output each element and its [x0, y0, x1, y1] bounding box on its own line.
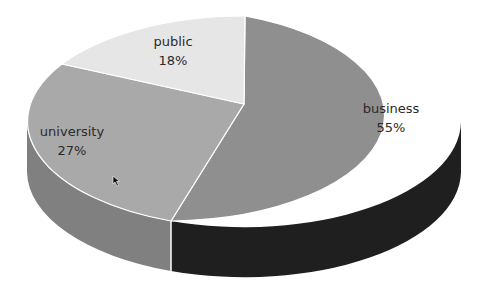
label-percent: 18% — [153, 51, 192, 70]
data-label-university: university 27% — [40, 122, 104, 160]
data-label-public: public 18% — [153, 32, 192, 70]
data-label-business: business 55% — [363, 99, 420, 137]
label-name: business — [363, 99, 420, 118]
label-percent: 27% — [40, 141, 104, 160]
move-cursor-icon — [112, 175, 122, 187]
label-name: public — [153, 32, 192, 51]
label-name: university — [40, 122, 104, 141]
label-percent: 55% — [363, 118, 420, 137]
